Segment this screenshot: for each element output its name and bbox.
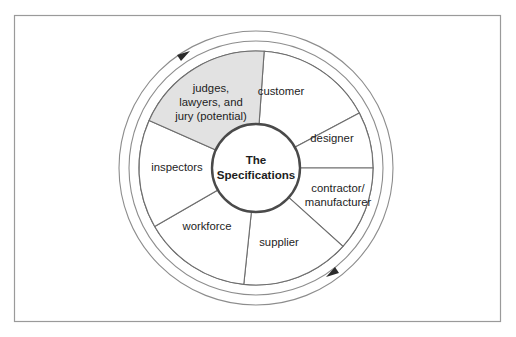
hub-label-line2: Specifications	[217, 168, 296, 181]
hub-label-line1: The	[246, 153, 267, 166]
segment-label-judges-lawyers-jury-line3: jury (potential)	[174, 110, 247, 122]
segment-label-customer-line1: customer	[258, 85, 305, 97]
segment-label-supplier: supplier	[259, 236, 299, 248]
segment-label-inspectors: inspectors	[151, 161, 203, 173]
segment-label-contractor-manufacturer-line1: contractor/	[311, 182, 365, 194]
segment-label-customer: customer	[258, 85, 305, 97]
segment-label-contractor-manufacturer-line2: manufacturer	[305, 196, 372, 208]
segment-label-workforce: workforce	[182, 220, 232, 232]
segment-label-supplier-line1: supplier	[259, 236, 299, 248]
segment-label-judges-lawyers-jury-line2: lawyers, and	[179, 96, 242, 108]
segment-label-workforce-line1: workforce	[182, 220, 232, 232]
figure-container: customerdesignercontractor/ manufacturer…	[0, 0, 516, 337]
segment-label-inspectors-line1: inspectors	[151, 161, 203, 173]
stakeholder-wheel-diagram: customerdesignercontractor/ manufacturer…	[0, 0, 516, 337]
segment-label-judges-lawyers-jury-line1: judges,	[192, 82, 229, 94]
segment-label-designer-line1: designer	[310, 132, 354, 144]
segment-label-designer: designer	[310, 132, 354, 144]
